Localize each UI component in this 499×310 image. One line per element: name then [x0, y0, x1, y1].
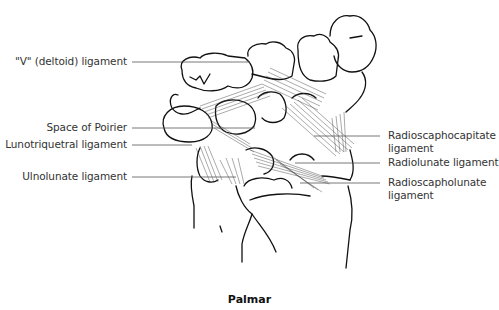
ligament-fibres — [196, 68, 354, 192]
label-radioscapholunate-ligament: Radioscapholunate ligament — [388, 176, 486, 202]
label-line: ligament — [388, 142, 496, 155]
wrist-ligament-drawing — [0, 0, 499, 310]
label-lunotriquetral-ligament: Lunotriquetral ligament — [0, 138, 127, 151]
label-space-of-poirier: Space of Poirier — [0, 121, 127, 134]
leader-lines — [132, 62, 380, 183]
label-radiolunate-ligament: Radiolunate ligament — [388, 156, 498, 169]
label-line: Radioscaphocapitate — [388, 129, 496, 142]
label-line: Radioscapholunate — [388, 176, 486, 189]
label-ulnolunate-ligament: Ulnolunate ligament — [0, 170, 127, 183]
label-line: ligament — [388, 189, 486, 202]
label-v-deltoid-ligament: "V" (deltoid) ligament — [0, 55, 127, 68]
label-radioscaphocapitate-ligament: Radioscaphocapitate ligament — [388, 129, 496, 155]
figure-caption: Palmar — [0, 293, 499, 306]
